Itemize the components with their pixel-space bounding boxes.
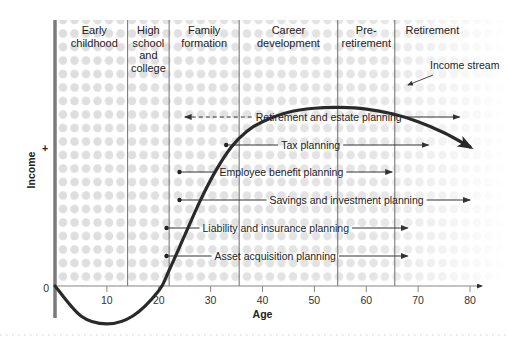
- planning-item-label: Employee benefit planning: [220, 166, 344, 178]
- planning-item-label: Liability and insurance planning: [203, 222, 350, 234]
- x-tick-label: 80: [464, 294, 476, 306]
- x-tick-label: 70: [412, 294, 424, 306]
- life-stage-label-line: High: [137, 24, 160, 36]
- life-stage-label-line: Retirement: [405, 24, 459, 36]
- income-stream-label: Income stream: [430, 59, 500, 71]
- x-tick-label: 40: [257, 294, 269, 306]
- x-tick-label: 30: [205, 294, 217, 306]
- y-axis-plus-sign: +: [42, 142, 48, 154]
- life-stage-label-line: formation: [181, 37, 227, 49]
- origin-label: 0: [43, 282, 49, 294]
- life-stage-label-line: and: [139, 49, 157, 61]
- life-stage-label-line: Pre-: [356, 24, 377, 36]
- life-stage-label-line: retirement: [341, 37, 391, 49]
- x-tick-label: 60: [360, 294, 372, 306]
- x-tick-label: 50: [309, 294, 321, 306]
- life-stage-label-line: Early: [82, 24, 108, 36]
- y-axis-title: Income: [25, 151, 37, 188]
- life-stage-label: Familyformation: [181, 24, 227, 49]
- planning-item-label: Savings and investment planning: [270, 194, 424, 206]
- life-stage-label-line: school: [132, 37, 164, 49]
- planning-item-label: Tax planning: [281, 139, 340, 151]
- life-stage-label-line: childhood: [71, 37, 118, 49]
- life-stage-label-line: development: [257, 37, 320, 49]
- planning-item-label: Asset acquisition planning: [215, 250, 337, 262]
- life-stage-label: Retirement: [405, 24, 459, 36]
- life-stage-label-line: Family: [188, 24, 221, 36]
- financial-planning-life-cycle-diagram: EarlychildhoodHighschoolandcollegeFamily…: [0, 0, 508, 345]
- chart-svg: EarlychildhoodHighschoolandcollegeFamily…: [0, 0, 508, 345]
- x-axis-title: Age: [253, 308, 273, 320]
- life-stage-label-line: Career: [272, 24, 306, 36]
- life-stage-label-line: college: [131, 62, 166, 74]
- x-tick-label: 10: [101, 294, 113, 306]
